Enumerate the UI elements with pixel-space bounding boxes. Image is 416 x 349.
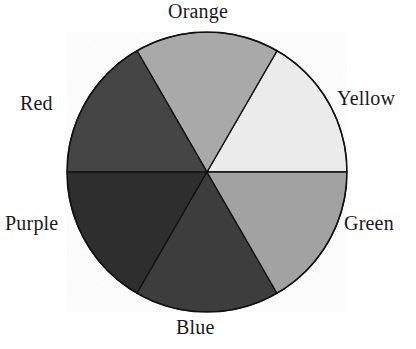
slice-label-purple: Purple (5, 213, 58, 233)
slice-label-red: Red (20, 93, 53, 113)
slice-label-blue: Blue (176, 317, 215, 337)
slice-label-orange: Orange (168, 1, 228, 21)
slice-label-yellow: Yellow (337, 88, 395, 108)
slice-label-green: Green (344, 213, 394, 233)
color-wheel-chart (0, 0, 416, 349)
color-wheel-figure: Orange Yellow Green Blue Purple Red (0, 0, 416, 349)
